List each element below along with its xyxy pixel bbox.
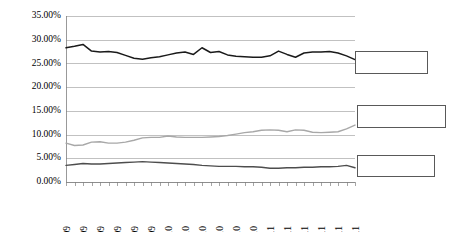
x-axis-tick-label: Jan-10 xyxy=(164,226,174,232)
callout-boxes-group xyxy=(356,52,446,177)
series-line-series-3 xyxy=(66,162,355,169)
gridlines-group: 0.00%5.00%10.00%15.00%20.00%25.00%30.00%… xyxy=(32,10,355,186)
x-axis-tick-label: Jul-10 xyxy=(215,226,225,232)
x-axis-tick-label: Sep-11 xyxy=(334,226,344,232)
chart-canvas: 0.00%5.00%10.00%15.00%20.00%25.00%30.00%… xyxy=(0,0,460,232)
x-axis-tick-label: Nov-10 xyxy=(249,226,259,232)
x-axis-tick-label: Jul-11 xyxy=(317,226,327,232)
x-axis-tick-label: Mar-09 xyxy=(79,226,89,232)
x-axis-tick-label: Sep-09 xyxy=(130,226,140,232)
x-axis-tick-label: Mar-11 xyxy=(283,226,293,232)
callout-box-bottom[interactable] xyxy=(358,156,435,177)
y-axis-tick-label: 10.00% xyxy=(32,129,61,139)
x-axis-tick-label: May-09 xyxy=(96,226,106,232)
y-axis-tick-label: 25.00% xyxy=(32,58,61,68)
callout-box-middle[interactable] xyxy=(358,106,446,128)
x-axis-tick-label: Nov-11 xyxy=(351,226,361,232)
series-line-series-1 xyxy=(66,44,355,59)
y-axis-tick-label: 5.00% xyxy=(36,152,61,162)
y-axis-tick-label: 35.00% xyxy=(32,10,61,20)
x-axis-tick-label: Sep-10 xyxy=(232,226,242,232)
y-axis-tick-label: 30.00% xyxy=(32,34,61,44)
y-axis-tick-label: 0.00% xyxy=(36,176,61,186)
x-axis-tick-label: Nov-09 xyxy=(147,226,157,232)
x-axis-tick-label: May-11 xyxy=(300,226,310,232)
x-axis-tick-label: Jan-11 xyxy=(266,226,276,232)
x-axis-tick-label: Mar-10 xyxy=(181,226,191,232)
y-axis-tick-label: 15.00% xyxy=(32,105,61,115)
callout-box-top[interactable] xyxy=(356,52,428,74)
x-axis-tick-label: May-10 xyxy=(198,226,208,232)
series-group xyxy=(66,44,355,168)
x-axis-tick-label: Jul-09 xyxy=(113,226,123,232)
x-axis-tick-label: Jan-09 xyxy=(62,226,72,232)
line-chart: 0.00%5.00%10.00%15.00%20.00%25.00%30.00%… xyxy=(0,0,460,232)
y-axis-tick-label: 20.00% xyxy=(32,81,61,91)
x-axis-labels-group: Jan-09Mar-09May-09Jul-09Sep-09Nov-09Jan-… xyxy=(62,226,361,232)
